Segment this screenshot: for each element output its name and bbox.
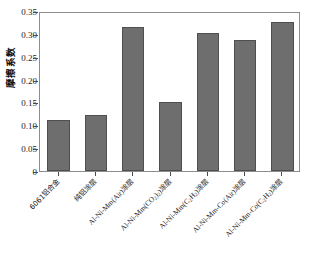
y-tick-mark xyxy=(33,35,38,36)
y-tick-mark xyxy=(33,81,38,82)
bar-chart-figure: 摩擦系数 00.050.100.150.200.250.300.35 6061铝… xyxy=(0,0,310,279)
x-tick-mark xyxy=(95,172,96,176)
bar xyxy=(159,102,181,171)
x-tick-mark xyxy=(244,172,245,176)
y-tick-mark xyxy=(33,126,38,127)
y-tick-mark xyxy=(33,12,38,13)
x-tick-mark xyxy=(132,172,133,176)
y-tick-mark xyxy=(33,103,38,104)
y-tick-mark xyxy=(33,58,38,59)
y-tick-mark xyxy=(33,172,38,173)
bar xyxy=(47,120,69,171)
x-tick-label: 纯铝涂层 xyxy=(73,178,98,203)
x-tick-mark xyxy=(281,172,282,176)
x-tick-mark xyxy=(207,172,208,176)
y-axis-ticklabels: 00.050.100.150.200.250.300.35 xyxy=(10,12,37,172)
y-tick-mark xyxy=(33,149,38,150)
bar xyxy=(122,27,144,171)
bar xyxy=(271,22,293,171)
bar xyxy=(85,115,107,171)
plot-area xyxy=(39,12,300,172)
bar xyxy=(197,33,219,171)
bars-layer xyxy=(40,13,299,171)
x-tick-label: 6061铝合金 xyxy=(28,178,61,211)
x-tick-mark xyxy=(170,172,171,176)
x-tick-mark xyxy=(58,172,59,176)
bar xyxy=(234,40,256,171)
